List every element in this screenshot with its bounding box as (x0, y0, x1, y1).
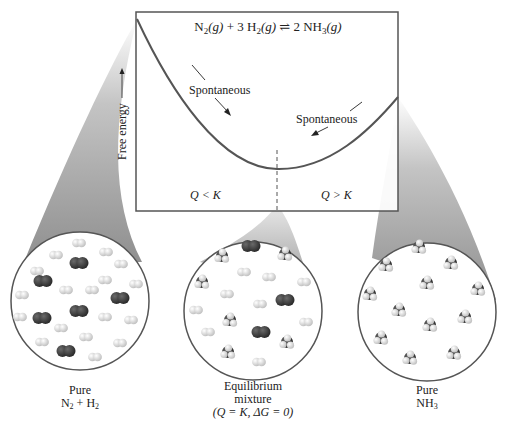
plot-frame (136, 12, 398, 211)
pure-reactants-circle (11, 232, 149, 370)
caption-pure-reactants: Pure N2 + H2 (30, 384, 130, 410)
caption-pure-products: Pure NH3 (387, 384, 467, 410)
reaction-equation: N2(g) + 3 H2(g) ⇌ 2 NH3(g) (194, 19, 341, 36)
right-spontaneous-label: Spontaneous (296, 112, 358, 126)
q-greater-than-k-label: Q > K (321, 188, 353, 202)
caption-equilibrium: Equilibrium mixture (Q = K, ΔG = 0) (193, 380, 313, 419)
svg-text:Free energy: Free energy (115, 103, 129, 160)
q-less-than-k-label: Q < K (190, 188, 222, 202)
left-spontaneous-label: Spontaneous (189, 83, 251, 97)
equilibrium-circle (184, 240, 322, 380)
free-energy-diagram: N2(g) + 3 H2(g) ⇌ 2 NH3(g) Free energy S… (0, 0, 506, 426)
